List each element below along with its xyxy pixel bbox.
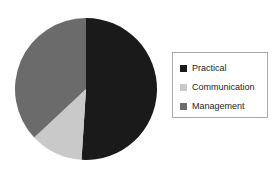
legend-label-management: Management — [192, 101, 245, 111]
legend-item-practical[interactable]: Practical — [180, 59, 267, 77]
legend-swatch-communication — [180, 84, 187, 91]
pie-slice-practical[interactable] — [82, 18, 157, 160]
pie-slices — [15, 18, 157, 160]
legend-label-practical: Practical — [192, 63, 227, 73]
legend-item-management[interactable]: Management — [180, 97, 267, 115]
legend-swatch-practical — [180, 65, 187, 72]
legend-item-communication[interactable]: Communication — [180, 78, 267, 96]
legend-swatch-management — [180, 103, 187, 110]
pie-chart-figure: Practical Communication Management — [0, 0, 277, 171]
chart-legend: Practical Communication Management — [172, 52, 268, 118]
pie-svg — [14, 17, 158, 161]
legend-label-communication: Communication — [192, 82, 255, 92]
pie-plot-area — [14, 17, 158, 161]
